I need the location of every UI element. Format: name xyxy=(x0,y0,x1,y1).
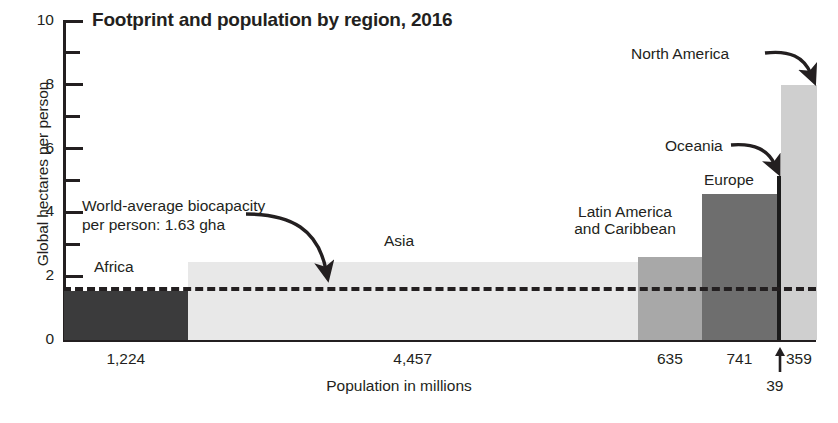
y-tick-label-6: 6 xyxy=(26,140,54,156)
y-tick-minor-9 xyxy=(66,51,80,54)
bar-north-america[interactable] xyxy=(781,85,817,340)
y-tick-label-0: 0 xyxy=(26,331,54,347)
chart-figure: Global hectares per person Footprint and… xyxy=(0,0,838,423)
bar-label-africa: Africa xyxy=(94,258,134,275)
population-label-africa: 1,224 xyxy=(86,350,166,368)
y-tick-label-4: 4 xyxy=(26,203,54,219)
bar-label-latin-america-line1: Latin America xyxy=(578,203,672,220)
bar-label-latin-america: Latin America and Caribbean xyxy=(566,203,684,238)
chart-title: Footprint and population by region, 2016 xyxy=(92,9,452,31)
population-label-latin-america-and-caribbean: 635 xyxy=(630,350,710,368)
y-tick-major-4 xyxy=(66,211,83,214)
y-tick-major-6 xyxy=(66,147,83,150)
oceania-arrow xyxy=(731,145,775,165)
population-label-asia: 4,457 xyxy=(373,350,453,368)
bar-label-oceania: Oceania xyxy=(665,137,723,154)
y-tick-label-2: 2 xyxy=(26,267,54,283)
y-tick-minor-5 xyxy=(66,179,80,182)
bar-label-latin-america-line2: and Caribbean xyxy=(574,220,676,237)
biocapacity-annotation: World-average biocapacity per person: 1.… xyxy=(82,196,265,234)
bar-asia[interactable] xyxy=(188,262,638,340)
y-tick-minor-3 xyxy=(66,243,80,246)
y-tick-major-8 xyxy=(66,83,83,86)
y-tick-minor-7 xyxy=(66,115,80,118)
biocapacity-annotation-line2: per person: 1.63 gha xyxy=(82,215,265,234)
bar-label-asia: Asia xyxy=(384,232,414,249)
biocapacity-annotation-line1: World-average biocapacity xyxy=(82,196,265,215)
bar-latin-america-and-caribbean[interactable] xyxy=(638,257,702,340)
bar-label-europe: Europe xyxy=(704,171,754,188)
north-america-arrow xyxy=(765,52,811,74)
bar-label-north-america: North America xyxy=(631,45,729,62)
y-tick-label-10: 10 xyxy=(26,12,54,28)
y-tick-major-10 xyxy=(66,20,83,23)
oceania-population-pointer xyxy=(770,346,792,372)
biocapacity-reference-line xyxy=(63,287,816,291)
y-tick-label-8: 8 xyxy=(26,76,54,92)
bar-africa[interactable] xyxy=(64,291,188,340)
x-axis-title: Population in millions xyxy=(0,377,838,395)
bar-europe[interactable] xyxy=(702,194,777,340)
x-axis-title-text: Population in millions xyxy=(326,377,472,394)
y-tick-major-2 xyxy=(66,275,83,278)
